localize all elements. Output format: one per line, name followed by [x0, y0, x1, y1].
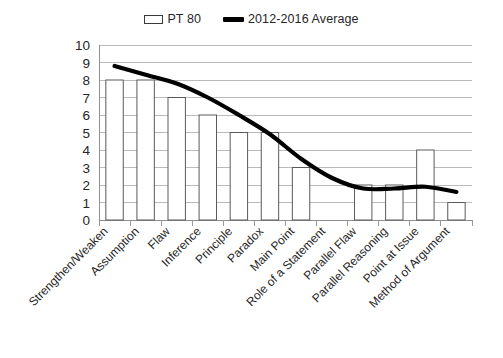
y-tick-label: 9	[82, 56, 90, 71]
y-tick-label: 3	[82, 161, 90, 176]
y-tick-label: 6	[82, 108, 90, 123]
y-tick-label: 1	[82, 196, 90, 211]
y-tick-label: 10	[75, 38, 90, 53]
average-line	[115, 66, 457, 192]
bar	[292, 168, 309, 221]
bar	[137, 80, 154, 220]
line-series-average	[115, 66, 457, 192]
x-axis-labels: Strengthen/WeakenAssumptionFlawInference…	[26, 224, 453, 311]
chart-svg: 109876543210 Strengthen/WeakenAssumption…	[0, 0, 503, 358]
plot-area: 109876543210 Strengthen/WeakenAssumption…	[0, 0, 503, 358]
gridlines	[99, 45, 472, 220]
y-axis-labels: 109876543210	[75, 38, 91, 228]
x-category-label: Flaw	[145, 224, 173, 252]
bar	[261, 133, 278, 221]
y-tick-label: 5	[82, 126, 90, 141]
bar	[106, 80, 123, 220]
bar	[168, 98, 185, 221]
chart-container: PT 80 2012-2016 Average 109876543210 Str…	[0, 0, 503, 358]
bar	[230, 133, 247, 221]
bar	[199, 115, 216, 220]
y-tick-label: 7	[82, 91, 90, 106]
y-tick-label: 8	[82, 73, 90, 88]
y-tick-label: 0	[82, 213, 90, 228]
y-tick-label: 4	[82, 143, 90, 158]
bar	[448, 203, 465, 221]
y-tick-label: 2	[82, 178, 90, 193]
